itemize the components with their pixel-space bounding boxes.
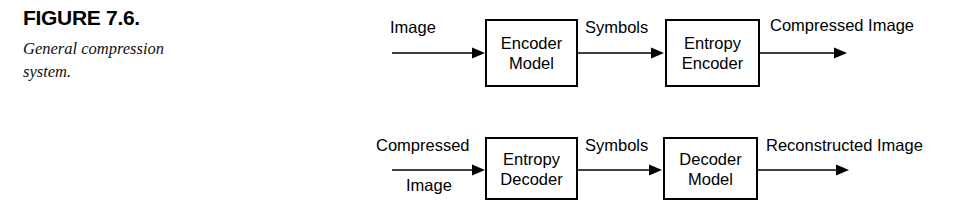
block-encoder-model: Encoder Model — [485, 19, 578, 87]
block-entropy-encoder-line1: Entropy — [684, 33, 741, 53]
arrow-top-symbols — [578, 44, 666, 62]
block-decoder-model-line1: Decoder — [679, 149, 741, 169]
block-entropy-encoder: Entropy Encoder — [665, 19, 760, 87]
block-encoder-model-line1: Encoder — [501, 33, 562, 53]
block-entropy-decoder-line2: Decoder — [500, 169, 562, 189]
figure-caption-text: General compression system. — [23, 37, 193, 83]
arrow-bottom-symbols — [578, 161, 666, 179]
block-encoder-model-line2: Model — [509, 53, 554, 73]
arrow-top-output — [760, 44, 850, 62]
block-decoder-model: Decoder Model — [663, 137, 758, 200]
arrow-top-input — [392, 44, 487, 62]
label-top-input-image: Image — [390, 18, 436, 37]
label-top-symbols: Symbols — [585, 18, 648, 37]
figure-page: FIGURE 7.6. General compression system. … — [0, 0, 965, 220]
figure-caption-block: FIGURE 7.6. General compression system. — [23, 6, 198, 83]
label-bottom-output-reconstructed-image: Reconstructed Image — [766, 136, 923, 155]
label-bottom-input-compressed: Compressed — [376, 136, 470, 155]
label-top-output-compressed-image: Compressed Image — [770, 16, 914, 35]
figure-number: FIGURE 7.6. — [23, 6, 198, 30]
label-bottom-symbols: Symbols — [585, 136, 648, 155]
arrow-bottom-input — [392, 161, 487, 179]
arrow-bottom-output — [758, 161, 853, 179]
block-entropy-encoder-line2: Encoder — [682, 53, 743, 73]
block-decoder-model-line2: Model — [688, 169, 733, 189]
block-entropy-decoder: Entropy Decoder — [485, 137, 578, 200]
block-entropy-decoder-line1: Entropy — [503, 149, 560, 169]
